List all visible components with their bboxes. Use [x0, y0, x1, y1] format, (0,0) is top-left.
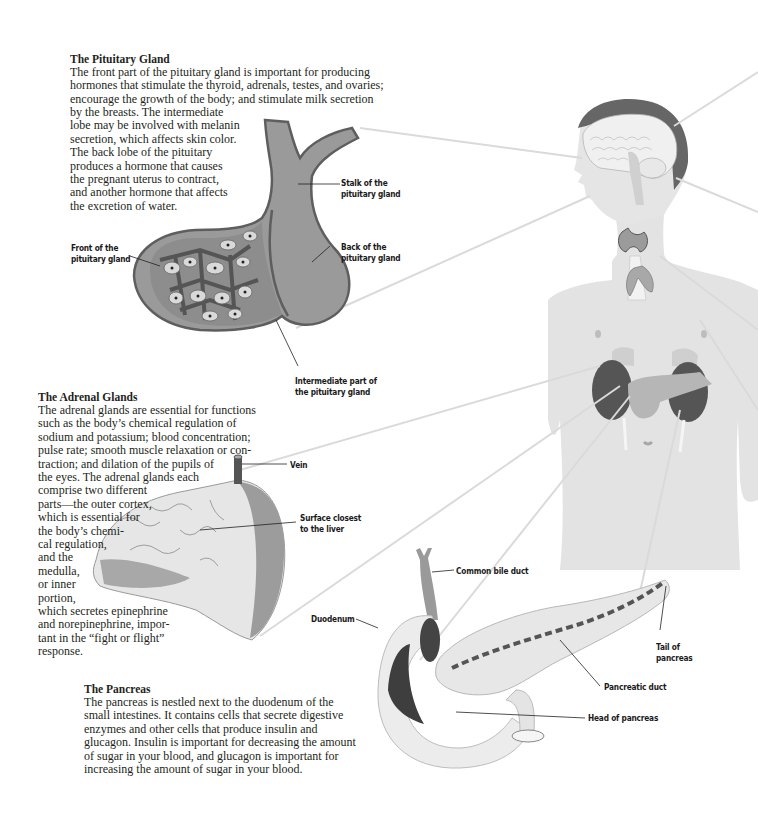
label-pancreatic-duct: Pancreatic duct: [604, 682, 666, 693]
pancreas-heading: The Pancreas: [84, 682, 151, 696]
adrenal-text-bottom: which secretes epinephrine and norepinep…: [38, 605, 238, 659]
pituitary-heading: The Pituitary Gland: [70, 52, 170, 66]
human-figure: [548, 99, 758, 570]
adrenal-text-wide: The adrenal glands are essential for fun…: [38, 404, 298, 471]
label-stalk-of-pituitary: Stalk of the pituitary gland: [341, 178, 401, 199]
adrenal-text-narrow: the eyes. The adrenal glands each compri…: [38, 471, 228, 605]
label-back-of-pituitary: Back of the pituitary gland: [341, 242, 401, 263]
label-front-of-pituitary: Front of the pituitary gland: [71, 243, 131, 264]
pancreas-text: The pancreas is nestled next to the duod…: [84, 696, 374, 776]
label-duodenum: Duodenum: [311, 614, 355, 625]
pancreas-illustration: [356, 548, 669, 768]
label-head-of-pancreas: Head of pancreas: [588, 713, 658, 724]
label-tail-of-pancreas: Tail of pancreas: [656, 642, 693, 663]
label-surface-closest-to-liver: Surface closest to the liver: [300, 513, 361, 534]
adrenal-heading: The Adrenal Glands: [38, 390, 138, 404]
pituitary-text-narrow: by the breasts. The intermediate lobe ma…: [70, 106, 260, 213]
label-intermediate-pituitary: Intermediate part of the pituitary gland: [295, 376, 377, 397]
pituitary-text-wide: The front part of the pituitary gland is…: [70, 66, 470, 106]
label-vein: Vein: [290, 460, 307, 471]
label-common-bile-duct: Common bile duct: [456, 566, 528, 577]
